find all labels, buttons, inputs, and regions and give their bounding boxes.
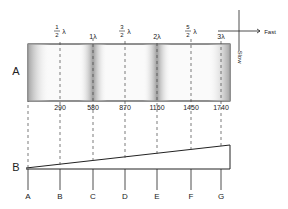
fast-label: Fast <box>264 29 276 35</box>
line-label-f: F <box>189 192 194 201</box>
line-label-c: C <box>90 192 96 201</box>
svg-text:2: 2 <box>120 32 124 38</box>
thickness-290: 290 <box>54 104 66 111</box>
svg-text:5: 5 <box>186 24 190 30</box>
svg-text:2: 2 <box>186 32 190 38</box>
line-label-d: D <box>122 192 128 201</box>
wedge-label: B <box>12 161 19 173</box>
plate-label: A <box>12 65 20 77</box>
thickness-870: 870 <box>119 104 131 111</box>
wavelength-half: 1 2 λ <box>54 24 66 38</box>
thickness-1160: 1160 <box>149 104 164 111</box>
wedge-b <box>26 145 230 169</box>
line-label-e: E <box>154 192 159 201</box>
wavelength-3-half: 3 2 λ <box>119 24 131 38</box>
wavelength-3: 3λ <box>217 33 225 40</box>
reference-lines <box>28 169 221 190</box>
svg-text:λ: λ <box>127 28 131 35</box>
thickness-580: 580 <box>87 104 99 111</box>
slow-label: Slow <box>237 50 243 64</box>
interference-diagram: A B C D E F G B A 290 580 870 1160 1450 … <box>0 0 288 209</box>
line-label-b: B <box>57 192 62 201</box>
wavelength-1: 1λ <box>89 33 97 40</box>
svg-text:2: 2 <box>55 32 59 38</box>
thickness-1740: 1740 <box>213 104 229 111</box>
plate-a <box>28 44 230 101</box>
line-label-g: G <box>218 192 224 201</box>
svg-text:3: 3 <box>120 24 124 30</box>
wavelength-5-half: 5 2 λ <box>185 24 197 38</box>
svg-text:λ: λ <box>62 28 66 35</box>
thickness-1450: 1450 <box>183 104 199 111</box>
svg-text:λ: λ <box>193 28 197 35</box>
svg-text:1: 1 <box>55 24 59 30</box>
line-label-a: A <box>25 192 31 201</box>
wavelength-2: 2λ <box>153 33 161 40</box>
